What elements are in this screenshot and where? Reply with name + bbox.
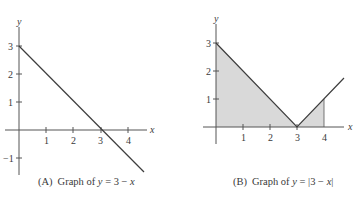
graph-b-y-tick-label: 3 xyxy=(206,38,211,49)
graph-a-y-tick-label: 2 xyxy=(8,69,13,80)
graph-a-caption-label: (A) xyxy=(38,176,53,188)
graph-a-caption-x: x xyxy=(129,176,135,187)
graph-a-x-tick-label: 4 xyxy=(126,135,131,146)
graph-b-shaded-area xyxy=(216,43,324,127)
graph-b-caption-label: (B) xyxy=(233,176,248,188)
graph-b: x y 1 2 3 4 3 2 1 (B)Graph of y = |3 − x… xyxy=(203,13,353,188)
graph-b-x-tick-label: 2 xyxy=(268,132,273,143)
graph-b-x-tick-label: 3 xyxy=(295,132,300,143)
graph-b-caption: (B)Graph of y = |3 − x| xyxy=(233,176,333,188)
graph-a-x-axis-label: x xyxy=(149,124,155,135)
graph-a-function-line xyxy=(19,46,144,172)
graph-a-y-axis-label: y xyxy=(16,16,22,27)
figure-canvas: x y 1 2 3 4 3 2 1 −1 (A)Graph of y = 3 −… xyxy=(0,0,358,197)
graph-a-y-tick-label: −1 xyxy=(3,153,14,164)
graph-a-x-tick-label: 1 xyxy=(44,135,49,146)
graph-b-x-tick-label: 1 xyxy=(241,132,246,143)
graph-b-caption-eq: = |3 − xyxy=(297,176,327,187)
graph-a-x-tick-label: 3 xyxy=(98,135,103,146)
graph-a-y-tick-label: 1 xyxy=(8,97,13,108)
graph-b-x-tick-label: 4 xyxy=(322,132,327,143)
graph-a: x y 1 2 3 4 3 2 1 −1 (A)Graph of y = 3 −… xyxy=(3,16,155,188)
graph-b-y-tick-label: 1 xyxy=(206,94,211,105)
graph-b-y-tick-label: 2 xyxy=(206,66,211,77)
graph-a-caption-prefix: Graph of xyxy=(58,176,98,187)
graph-a-y-tick-label: 3 xyxy=(8,41,13,52)
graph-a-caption: (A)Graph of y = 3 − x xyxy=(38,176,135,188)
graph-b-x-axis-label: x xyxy=(347,121,353,132)
graph-b-caption-close: | xyxy=(331,176,333,187)
graph-a-x-tick-label: 2 xyxy=(71,135,76,146)
graph-b-y-axis-label: y xyxy=(213,13,219,24)
graph-a-caption-eq: = 3 − xyxy=(103,176,131,187)
graph-b-caption-prefix: Graph of xyxy=(252,176,292,187)
